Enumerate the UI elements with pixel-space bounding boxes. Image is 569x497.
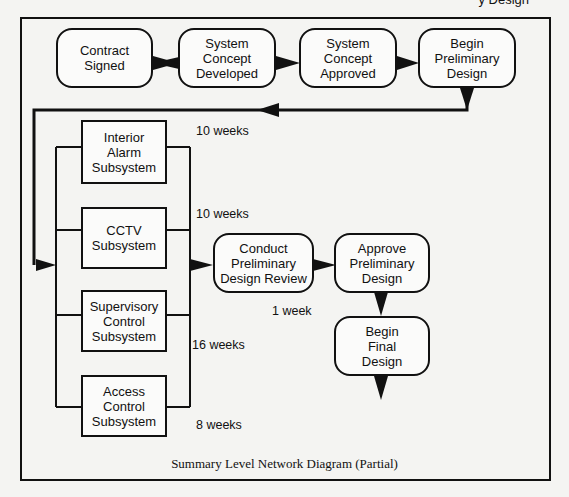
node-approve-preliminary-design: Approve Preliminary Design	[334, 233, 430, 293]
subsystem-interior-alarm: Interior Alarm Subsystem	[81, 120, 167, 184]
node-contract-signed: Contract Signed	[56, 28, 153, 88]
node-begin-final-design: Begin Final Design	[334, 316, 430, 376]
duration-interior-alarm: 10 weeks	[196, 124, 249, 138]
subsystem-supervisory-control: Supervisory Control Subsystem	[81, 290, 167, 352]
node-system-concept-developed: System Concept Developed	[178, 28, 276, 88]
node-system-concept-approved: System Concept Approved	[299, 28, 397, 88]
subsystem-cctv: CCTV Subsystem	[81, 207, 167, 269]
node-conduct-preliminary-design-review: Conduct Preliminary Design Review	[213, 233, 314, 293]
duration-cctv: 10 weeks	[196, 207, 249, 221]
node-begin-preliminary-design: Begin Preliminary Design	[418, 28, 516, 88]
duration-access-control: 8 weeks	[196, 418, 242, 432]
duration-conduct-review: 1 week	[272, 304, 312, 318]
duration-supervisory-control: 16 weeks	[192, 338, 245, 352]
diagram-caption: Summary Level Network Diagram (Partial)	[0, 456, 569, 472]
subsystem-access-control: Access Control Subsystem	[81, 375, 167, 437]
